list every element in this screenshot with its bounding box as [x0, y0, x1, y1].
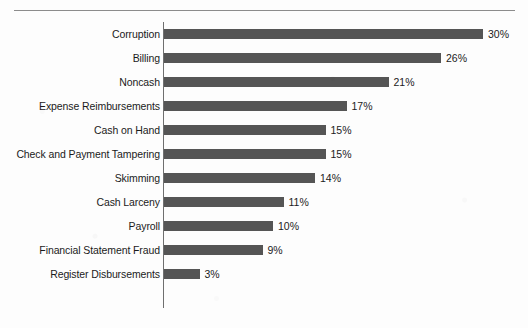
bar: [164, 101, 347, 111]
bar-value-label: 10%: [278, 214, 299, 238]
bar-value-label: 15%: [331, 142, 352, 166]
bar-value-label: 11%: [289, 190, 309, 214]
bar-chart-figure: Corruption30%Billing26%Noncash21%Expense…: [0, 0, 528, 328]
category-label: Billing: [133, 46, 160, 70]
category-label: Expense Reimbursements: [39, 94, 160, 118]
bar: [164, 77, 389, 87]
category-label: Noncash: [119, 70, 160, 94]
bar-row: Cash on Hand15%: [0, 118, 528, 142]
bar-row: Register Disbursements3%: [0, 262, 528, 286]
category-label: Check and Payment Tampering: [16, 142, 160, 166]
bar-row: Cash Larceny11%: [0, 190, 528, 214]
bar-row: Check and Payment Tampering15%: [0, 142, 528, 166]
category-label: Corruption: [112, 22, 160, 46]
bar: [164, 125, 326, 135]
bar-row: Billing26%: [0, 46, 528, 70]
category-label: Cash Larceny: [96, 190, 160, 214]
bar-row: Payroll10%: [0, 214, 528, 238]
bar: [164, 29, 483, 39]
top-divider-rule: [14, 10, 515, 11]
category-label: Cash on Hand: [94, 118, 160, 142]
category-label: Register Disbursements: [50, 262, 160, 286]
category-label: Skimming: [115, 166, 160, 190]
bar-value-label: 30%: [488, 22, 509, 46]
bar-value-label: 21%: [394, 70, 415, 94]
bar-value-label: 15%: [331, 118, 352, 142]
bar-row: Financial Statement Fraud9%: [0, 238, 528, 262]
bar-value-label: 9%: [268, 238, 283, 262]
bar-row: Skimming14%: [0, 166, 528, 190]
bar: [164, 53, 441, 63]
bar: [164, 149, 326, 159]
bar: [164, 269, 200, 279]
bar: [164, 221, 273, 231]
bar-row: Corruption30%: [0, 22, 528, 46]
bar-value-label: 3%: [205, 262, 220, 286]
category-label: Payroll: [129, 214, 160, 238]
bar-value-label: 14%: [320, 166, 341, 190]
bar: [164, 197, 284, 207]
plot-area: Corruption30%Billing26%Noncash21%Expense…: [0, 22, 528, 286]
bar: [164, 245, 263, 255]
bar: [164, 173, 315, 183]
bar-row: Noncash21%: [0, 70, 528, 94]
bar-value-label: 26%: [446, 46, 467, 70]
bar-row: Expense Reimbursements17%: [0, 94, 528, 118]
bar-value-label: 17%: [352, 94, 373, 118]
category-label: Financial Statement Fraud: [39, 238, 160, 262]
